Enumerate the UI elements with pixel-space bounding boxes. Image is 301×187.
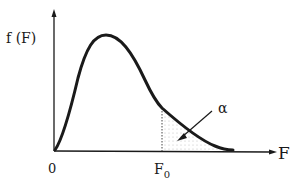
x-axis-label: F <box>278 143 290 163</box>
x-axis <box>54 151 270 152</box>
y-axis-arrowhead <box>52 9 57 17</box>
origin-label: 0 <box>48 161 56 176</box>
critical-value-subscript: 0 <box>164 169 170 180</box>
y-axis-label: f (F) <box>6 30 36 46</box>
f-distribution-diagram <box>0 0 301 187</box>
x-axis-arrowhead <box>269 150 277 155</box>
alpha-label: α <box>218 100 227 116</box>
density-curve <box>55 35 233 150</box>
critical-value-main: F <box>154 161 164 177</box>
critical-value-label: F0 <box>154 161 170 180</box>
alpha-pointer-arrow <box>182 111 212 137</box>
